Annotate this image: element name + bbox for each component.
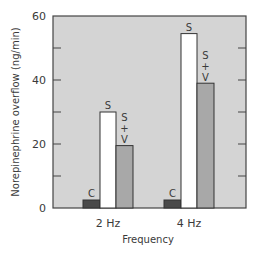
bar-label-sv-plus-2hz: + xyxy=(120,123,128,134)
bar-label-c-2hz: C xyxy=(88,188,95,199)
bar-label-sv-v-4hz: V xyxy=(202,72,209,83)
bar-c-2hz xyxy=(83,200,100,208)
norepinephrine-bar-chart: 60 40 20 0 Norepinephrine overflow (ng/m… xyxy=(0,0,256,254)
y-tick-label-0: 0 xyxy=(39,202,46,215)
bar-s-4hz xyxy=(181,34,197,208)
bar-label-sv-plus-4hz: + xyxy=(201,61,209,72)
bar-label-sv-s-2hz: S xyxy=(121,112,127,123)
bar-c-4hz xyxy=(164,200,181,208)
x-category-label-4hz: 4 Hz xyxy=(177,217,202,230)
bar-label-s-2hz: S xyxy=(105,100,111,111)
y-axis-title: Norepinephrine overflow (ng/min) xyxy=(10,27,21,196)
y-tick-label-60: 60 xyxy=(32,10,46,23)
y-tick-label-20: 20 xyxy=(32,138,46,151)
y-tick-label-40: 40 xyxy=(32,74,46,87)
bar-label-sv-s-4hz: S xyxy=(202,50,208,61)
plot-area xyxy=(53,16,246,208)
bar-sv-4hz xyxy=(197,83,214,208)
x-category-label-2hz: 2 Hz xyxy=(96,217,121,230)
bar-label-s-4hz: S xyxy=(186,22,192,33)
bar-label-c-4hz: C xyxy=(169,188,176,199)
bar-sv-2hz xyxy=(116,146,133,208)
bar-label-sv-v-2hz: V xyxy=(121,134,128,145)
bar-s-2hz xyxy=(100,112,116,208)
x-axis-title: Frequency xyxy=(122,234,174,245)
